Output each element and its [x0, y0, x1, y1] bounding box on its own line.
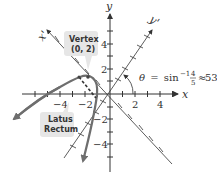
theta-exponent: −1 — [180, 70, 190, 78]
vertex-callout-line1: Vertex — [69, 35, 99, 44]
y-axis-label: y — [105, 0, 113, 13]
y-prime-axis-label: y' — [146, 12, 162, 29]
y-tick-neg2: −2 — [93, 114, 108, 125]
y-tick-neg4: −4 — [93, 139, 108, 150]
vertex-callout-line2: (0, 2) — [71, 45, 95, 54]
x-tick-2: 2 — [132, 99, 138, 110]
latus-callout-line2: Rectum — [44, 125, 78, 134]
x-axis: x −4 −2 2 4 — [22, 88, 189, 110]
theta-fraction-num: 4 — [191, 70, 196, 78]
theta-fraction-den: 5 — [191, 79, 195, 87]
angle-arc — [124, 75, 133, 94]
x-tick-neg2: −2 — [78, 99, 93, 110]
y-tick-2: 2 — [101, 64, 107, 75]
vertex-point — [86, 75, 90, 79]
rotated-parabola-diagram: x −4 −2 2 4 y 4 2 −2 −4 — [0, 0, 217, 178]
latus-endpoint — [78, 76, 81, 79]
theta-degrees: 53° — [205, 72, 217, 83]
vertex-callout: Vertex (0, 2) — [64, 31, 99, 70]
y-tick-4: 4 — [101, 39, 107, 50]
x-prime-axis-label: x' — [35, 28, 51, 43]
theta-label: θ = sin −1 4 5 ≈ 53° — [139, 70, 217, 87]
latus-callout-line1: Latus — [48, 115, 73, 124]
svg-text:θ = sin: θ = sin — [139, 72, 179, 83]
x-tick-4: 4 — [157, 99, 163, 110]
x-axis-label: x — [182, 88, 189, 101]
